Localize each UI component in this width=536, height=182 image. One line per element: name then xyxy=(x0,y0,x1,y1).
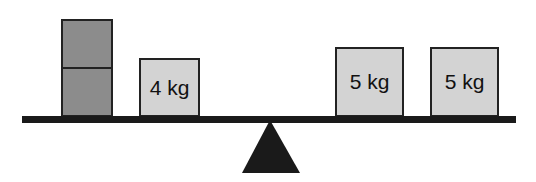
fulcrum-triangle-icon xyxy=(0,0,536,182)
